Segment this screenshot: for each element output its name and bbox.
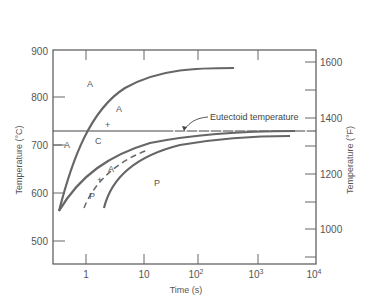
x-tick-10: 10	[138, 269, 150, 280]
y-tick-600: 600	[31, 188, 48, 199]
curve-upper	[59, 68, 234, 211]
ttt-diagram: 900 800 700 600 500 Temperature (°C) 160…	[0, 0, 371, 306]
x-ticks	[86, 50, 258, 264]
eutectoid-arrow	[184, 117, 208, 130]
region-c: C	[95, 136, 102, 146]
plus-marker-upper: +	[105, 120, 110, 130]
plus-marker-lower: +	[97, 175, 102, 185]
y-tick-900: 900	[31, 46, 48, 57]
y-right-tick-1000: 1000	[320, 224, 343, 235]
y-right-tick-1600: 1600	[320, 57, 343, 68]
region-a-dashed: A	[108, 164, 114, 174]
x-tick-100: 102	[188, 268, 203, 280]
region-a-top: A	[87, 79, 93, 89]
y-right-tick-1400: 1400	[320, 113, 343, 124]
y-tick-500: 500	[31, 236, 48, 247]
curve-transformation-finish	[104, 136, 290, 208]
x-tick-1: 1	[83, 269, 89, 280]
region-p-dashed: P	[89, 191, 95, 201]
y-ticks-left	[53, 97, 65, 241]
y-axis-title-right: Temperature (°F)	[345, 126, 355, 194]
region-p-right: P	[154, 178, 160, 188]
y-tick-800: 800	[31, 92, 48, 103]
y-ticks-right	[305, 62, 316, 257]
y-right-tick-1200: 1200	[320, 169, 343, 180]
region-a-left: A	[64, 140, 70, 150]
x-tick-1000: 103	[248, 268, 263, 280]
x-axis-title: Time (s)	[170, 285, 203, 295]
y-tick-700: 700	[31, 140, 48, 151]
eutectoid-label: Eutectoid temperature	[210, 112, 299, 122]
y-axis-title-left: Temperature (°C)	[14, 125, 24, 194]
region-a-mid: A	[116, 104, 122, 114]
x-tick-10000: 104	[306, 268, 321, 280]
